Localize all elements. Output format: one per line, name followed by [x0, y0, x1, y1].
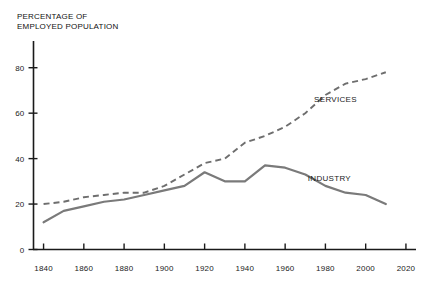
chart-container: PERCENTAGE OF EMPLOYED POPULATION 020406… [0, 0, 425, 288]
chart-axes [33, 41, 416, 250]
x-tick-label: 1960 [276, 264, 295, 273]
y-tick-label: 60 [15, 109, 25, 118]
x-tick-label: 2000 [356, 264, 375, 273]
y-tick-label: 20 [15, 200, 25, 209]
series-annotations: SERVICESINDUSTRY [308, 95, 357, 184]
series-line-services [44, 72, 386, 204]
y-tick-label: 0 [20, 246, 25, 255]
series-label-industry: INDUSTRY [308, 174, 352, 183]
x-tick-label: 1940 [236, 264, 255, 273]
x-tick-label: 1900 [155, 264, 174, 273]
x-tick-label: 2020 [397, 264, 416, 273]
series-label-services: SERVICES [314, 95, 357, 104]
line-chart-plot: 020406080 184018601880190019201940196019… [0, 0, 425, 288]
x-tick-label: 1840 [34, 264, 53, 273]
y-tick-label: 40 [15, 155, 25, 164]
x-tick-label: 1980 [316, 264, 335, 273]
y-tick-label: 80 [15, 64, 25, 73]
x-tick-label: 1880 [115, 264, 134, 273]
x-tick-label: 1920 [195, 264, 214, 273]
x-tick-label: 1860 [75, 264, 94, 273]
x-axis-ticks: 1840186018801900192019401960198020002020 [34, 244, 415, 273]
